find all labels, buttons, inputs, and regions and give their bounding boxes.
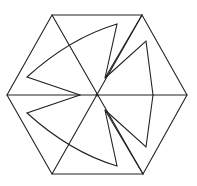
upper-right-blade bbox=[105, 15, 153, 95]
hexagon-pinwheel-diagram bbox=[0, 0, 197, 186]
center-point bbox=[96, 94, 99, 97]
lower-right-blade bbox=[105, 95, 153, 174]
